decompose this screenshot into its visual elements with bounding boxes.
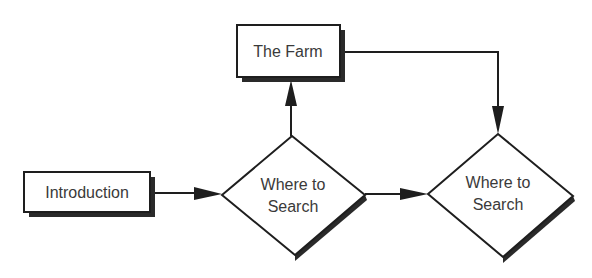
edge-where-to-search-1-to-the-farm xyxy=(285,80,297,136)
node-where-to-search-2[interactable]: Where to Search xyxy=(428,134,575,263)
edge-introduction-to-where-to-search-1 xyxy=(155,187,222,200)
node-label-line1: Where to xyxy=(466,174,531,191)
node-label: The Farm xyxy=(253,43,322,60)
node-label: Introduction xyxy=(45,184,129,201)
edge-the-farm-to-where-to-search-2 xyxy=(345,52,504,134)
edge-where-to-search-1-to-where-to-search-2 xyxy=(365,188,428,200)
node-introduction[interactable]: Introduction xyxy=(24,172,155,217)
node-label-line2: Search xyxy=(473,196,524,213)
arrowhead-icon xyxy=(285,80,297,106)
arrowhead-icon xyxy=(400,188,428,200)
flowchart-canvas: Introduction The Farm Where to Search Wh… xyxy=(0,0,592,278)
node-label-line1: Where to xyxy=(261,176,326,193)
node-where-to-search-1[interactable]: Where to Search xyxy=(222,136,367,261)
node-diamond xyxy=(222,136,365,255)
arrowhead-icon xyxy=(492,106,504,134)
arrowhead-icon xyxy=(194,187,222,200)
node-label-line2: Search xyxy=(268,198,319,215)
node-the-farm[interactable]: The Farm xyxy=(237,25,345,82)
